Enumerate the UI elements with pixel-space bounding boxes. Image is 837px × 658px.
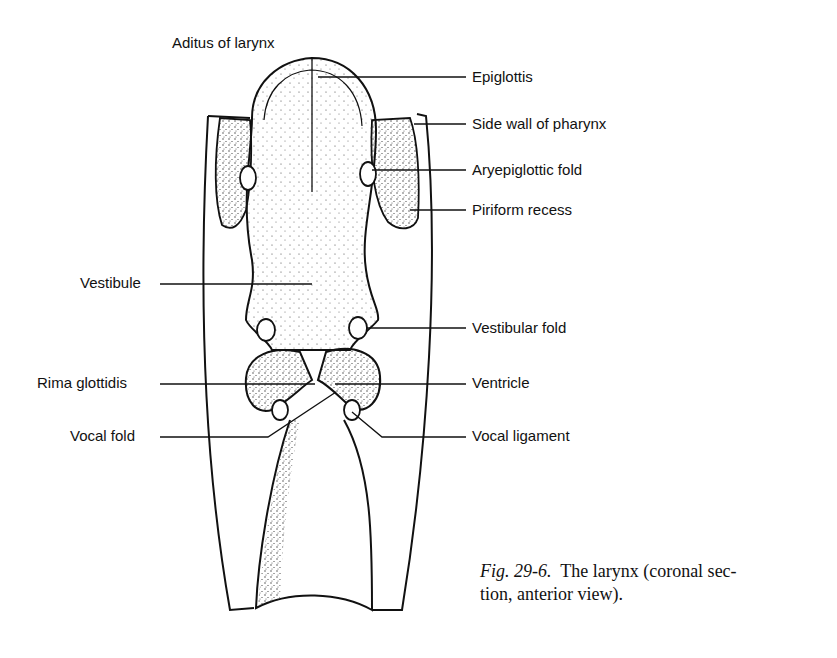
right-aryepiglottic-oval bbox=[360, 162, 376, 186]
label-piriform-recess: Piriform recess bbox=[472, 201, 572, 219]
left-vestibular-oval bbox=[257, 319, 275, 341]
label-aditus-of-larynx: Aditus of larynx bbox=[172, 34, 275, 52]
caption-line-2: tion, anterior view). bbox=[480, 584, 623, 604]
label-vestibular-fold: Vestibular fold bbox=[472, 319, 566, 337]
label-aryepiglottic-fold: Aryepiglottic fold bbox=[472, 161, 582, 179]
label-vocal-ligament: Vocal ligament bbox=[472, 427, 570, 445]
left-vocal-oval bbox=[272, 400, 288, 420]
label-epiglottis: Epiglottis bbox=[472, 68, 533, 86]
label-vocal-fold: Vocal fold bbox=[70, 427, 135, 445]
figure-caption: Fig. 29-6. The larynx (coronal sec- tion… bbox=[480, 560, 820, 606]
label-side-wall-of-pharynx: Side wall of pharynx bbox=[472, 115, 606, 133]
right-piriform-recess bbox=[371, 118, 418, 228]
label-ventricle: Ventricle bbox=[472, 374, 530, 392]
figure-number: Fig. 29-6. bbox=[480, 561, 552, 581]
label-vestibule: Vestibule bbox=[80, 274, 141, 292]
left-aryepiglottic-oval bbox=[240, 166, 256, 190]
caption-line-1: The larynx (coronal sec- bbox=[560, 561, 736, 581]
label-rima-glottidis: Rima glottidis bbox=[37, 374, 127, 392]
right-vestibular-oval bbox=[349, 317, 367, 339]
